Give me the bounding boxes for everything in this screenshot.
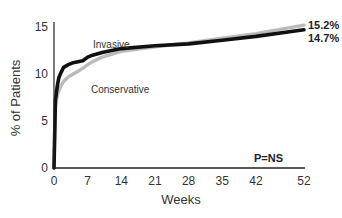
y-tick-label: 15: [35, 20, 49, 34]
x-tick-label: 28: [182, 174, 196, 188]
y-tick-label: 0: [41, 161, 48, 175]
series-layer: [54, 25, 304, 168]
x-tick-label: 0: [51, 174, 58, 188]
x-tick-labels: 07142128354252: [51, 174, 311, 188]
y-tick-label: 10: [35, 67, 49, 81]
series-line-conservative: [54, 25, 304, 168]
y-tick-label: 5: [41, 114, 48, 128]
invasive-label: Invasive: [93, 39, 130, 50]
y-axis-label: % of Patients: [8, 59, 23, 136]
p-value-label: P=NS: [254, 152, 283, 164]
x-tick-label: 14: [115, 174, 129, 188]
y-tick-labels: 051015: [35, 20, 49, 175]
end-label-invasive: 14.7%: [308, 32, 339, 44]
x-tick-label: 21: [148, 174, 162, 188]
x-axis-label: Weeks: [161, 192, 201, 207]
end-label-conservative: 15.2%: [308, 19, 339, 31]
x-tick-label: 7: [84, 174, 91, 188]
kaplan-meier-chart: 051015 07142128354252 % of Patients Week…: [0, 0, 342, 218]
x-tick-label: 52: [297, 174, 311, 188]
series-line-invasive: [54, 30, 304, 168]
x-tick-label: 35: [216, 174, 230, 188]
x-tick-label: 42: [249, 174, 263, 188]
conservative-label: Conservative: [91, 84, 150, 95]
